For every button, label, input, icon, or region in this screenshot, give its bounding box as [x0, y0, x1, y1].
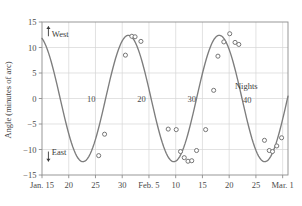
data-point-marker — [280, 136, 284, 140]
y-axis-ticks — [39, 22, 42, 175]
x-axis-tick-label: Mar. 1 — [272, 180, 294, 190]
y-axis-tick-label: 0 — [32, 94, 36, 104]
data-point-marker — [212, 88, 216, 92]
annotation-label-10: 10 — [87, 94, 96, 104]
y-axis-tick-label: 5 — [32, 68, 36, 78]
x-axis-tick-label: Feb. 5 — [138, 180, 159, 190]
x-axis-tick-label: 25 — [91, 180, 100, 190]
data-point-marker — [166, 127, 170, 131]
data-point-marker — [237, 42, 241, 46]
data-point-marker — [216, 54, 220, 58]
y-axis-tick-label: −15 — [23, 170, 36, 180]
annotation-label-40: 40 — [243, 95, 252, 105]
data-point-marker — [195, 148, 199, 152]
data-point-marker — [222, 40, 226, 44]
y-axis-tick-label: 10 — [28, 43, 37, 53]
x-axis-tick-label: 30 — [118, 180, 127, 190]
x-axis-tick-label: Jan. 15 — [30, 180, 54, 190]
data-point-marker — [228, 32, 232, 36]
data-point-marker — [133, 35, 137, 39]
y-axis-tick-label: 15 — [28, 17, 37, 27]
data-point-marker — [275, 144, 279, 148]
data-point-marker — [174, 128, 178, 132]
data-point-marker — [190, 159, 194, 163]
angle-vs-date-chart: 151050−5−10−15 Jan. 15202530Feb. 5101520… — [0, 0, 302, 206]
y-axis-tick-label: −5 — [27, 119, 36, 129]
x-axis-ticks — [42, 175, 283, 178]
data-point-marker — [178, 149, 182, 153]
y-axis-title: Angle (minutes of arc) — [3, 61, 13, 138]
x-axis-tick-label: 20 — [225, 180, 234, 190]
data-point-marker — [182, 156, 186, 160]
annotation-label-east: East — [52, 147, 67, 157]
data-point-marker — [262, 138, 266, 142]
chart-figure: 151050−5−10−15 Jan. 15202530Feb. 5101520… — [0, 0, 302, 206]
y-axis-tick-labels: 151050−5−10−15 — [23, 17, 36, 180]
annotation-label-30: 30 — [187, 94, 196, 104]
x-axis-tick-labels: Jan. 15202530Feb. 510152025Mar. 1 — [30, 180, 294, 190]
data-point-marker — [123, 53, 127, 57]
x-axis-tick-label: 25 — [252, 180, 261, 190]
x-axis-tick-label: 20 — [64, 180, 73, 190]
data-point-marker — [270, 149, 274, 153]
y-axis-tick-label: −10 — [23, 145, 36, 155]
data-point-marker — [103, 132, 107, 136]
annotation-label-20: 20 — [137, 94, 146, 104]
data-point-marker — [139, 39, 143, 43]
annotation-label-nights: Nights — [235, 81, 258, 91]
annotation-label-west: West — [52, 29, 69, 39]
x-axis-tick-label: 10 — [171, 180, 180, 190]
data-point-marker — [97, 154, 101, 158]
x-axis-tick-label: 15 — [198, 180, 207, 190]
data-point-marker — [204, 128, 208, 132]
